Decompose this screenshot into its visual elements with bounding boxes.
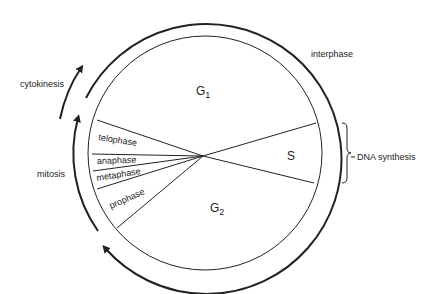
s-top-line xyxy=(203,123,316,156)
metaphase-label: metaphase xyxy=(96,166,142,183)
telophase-label: telophase xyxy=(98,132,138,148)
anaphase-label: anaphase xyxy=(97,155,137,166)
cytokinesis-label: cytokinesis xyxy=(20,79,65,89)
interphase-label: interphase xyxy=(311,49,353,59)
g2-label: G2 xyxy=(210,201,224,217)
prophase-label: prophase xyxy=(108,186,146,210)
s-label: S xyxy=(287,149,295,163)
cell-cycle-diagram: G1 S G2 telophase anaphase metaphase pro… xyxy=(0,0,427,294)
s-bottom-line xyxy=(203,156,314,183)
cytokinesis-arrow xyxy=(60,68,81,119)
mitosis-arc xyxy=(73,118,98,231)
dna-synthesis-brace xyxy=(342,123,351,183)
dna-synthesis-label: DNA synthesis xyxy=(357,152,416,162)
g1-label: G1 xyxy=(196,84,210,100)
mitosis-label: mitosis xyxy=(37,169,66,179)
